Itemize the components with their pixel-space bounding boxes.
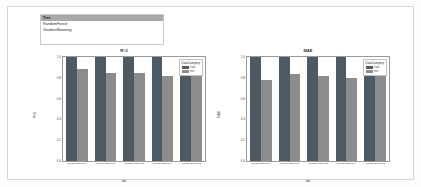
bar-test [290,74,301,161]
y-tick: 0.2 [241,138,245,142]
panel-frame: Tree RandomForest GradientBoosting R^2 R… [7,6,414,180]
legend-swatch-train [366,66,373,69]
chart-right: MAE MAE 1.0 0.8 0.6 0.4 0.2 0.0 DataCate… [220,47,396,184]
y-tick: 1.0 [241,55,245,59]
bar-test [346,78,357,161]
y-tick: 0.6 [241,97,245,101]
legend-swatch-test [182,70,189,73]
bar-group [148,57,176,161]
y-tick: 0.6 [57,97,61,101]
x-tick-labels: Results_20200101Results_20200102Results_… [62,162,206,174]
chart-title: MAE [220,48,396,53]
y-tick: 1.0 [57,55,61,59]
bar-train [364,65,375,161]
bar-train [279,57,290,161]
bar-train [123,57,134,161]
bar-test [106,73,117,161]
bar-test [318,76,329,161]
legend-entry-test: test [366,70,384,73]
bar-group [63,57,91,161]
bar-test [375,74,386,161]
output-panel: Tree RandomForest GradientBoosting R^2 R… [0,0,421,187]
legend-entry-train: train [366,66,384,69]
chart-left: R^2 R^2 1.0 0.8 0.6 0.4 0.2 0.0 DataCate… [36,47,212,184]
plot-area: 1.0 0.8 0.6 0.4 0.2 0.0 DataCategory tra… [62,56,206,162]
legend-label: train [374,66,379,69]
chart-legend: DataCategory train test [179,59,203,76]
x-tick: Results_20200102 [275,162,304,174]
legend-swatch-test [366,70,373,73]
y-tick: 0.0 [57,159,61,163]
bar-train [66,57,77,161]
y-tick: 0.8 [241,76,245,80]
x-tick: Results_20200105 [361,162,390,174]
chart-title: R^2 [36,48,212,53]
legend-entry-test: test [182,70,200,73]
legend-label: train [190,66,195,69]
plot-area: 1.0 0.8 0.6 0.4 0.2 0.0 DataCategory tra… [246,56,390,162]
y-tick: 0.8 [57,76,61,80]
bar-test [261,80,272,161]
x-axis-label: idx [36,179,212,183]
x-tick: Results_20200101 [246,162,275,174]
bar-group [304,57,332,161]
list-item[interactable]: GradientBoosting [41,27,163,33]
x-axis-label: idx [220,179,396,183]
bar-group [332,57,360,161]
x-tick: Results_20200105 [177,162,206,174]
bar-test [162,76,173,161]
x-tick: Results_20200103 [304,162,333,174]
bar-group [275,57,303,161]
legend-title: DataCategory [366,61,384,65]
bar-train [180,65,191,161]
bar-train [250,57,261,161]
bar-group [91,57,119,161]
y-tick: 0.4 [57,117,61,121]
y-tick: 0.2 [57,138,61,142]
y-tick: 0.0 [241,159,245,163]
x-tick: Results_20200102 [91,162,120,174]
bar-test [134,73,145,161]
legend-swatch-train [182,66,189,69]
x-tick: Results_20200104 [332,162,361,174]
chart-legend: DataCategory train test [363,59,387,76]
bar-group [247,57,275,161]
x-tick: Results_20200104 [148,162,177,174]
y-axis-label: R^2 [33,112,37,118]
bar-train [95,57,106,161]
legend-entry-train: train [182,66,200,69]
y-tick: 0.4 [241,117,245,121]
bar-test [191,73,202,161]
y-axis-label: MAE [217,111,221,118]
x-tick-labels: Results_20200101Results_20200102Results_… [246,162,390,174]
bar-group [120,57,148,161]
model-list[interactable]: Tree RandomForest GradientBoosting [40,14,164,45]
x-tick: Results_20200101 [62,162,91,174]
legend-title: DataCategory [182,61,200,65]
bar-train [336,57,347,161]
bar-train [152,57,163,161]
legend-label: test [374,70,378,73]
bar-test [77,69,88,161]
bar-train [307,57,318,161]
legend-label: test [190,70,194,73]
x-tick: Results_20200103 [120,162,149,174]
